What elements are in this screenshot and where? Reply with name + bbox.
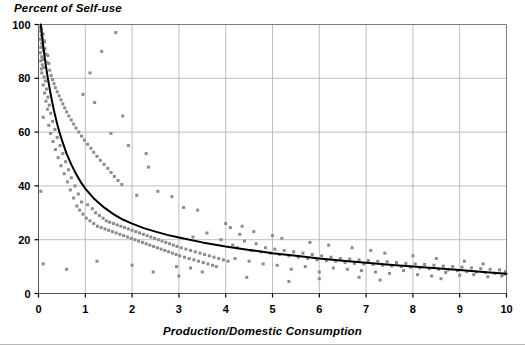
data-point-marker [61,152,64,155]
data-point-marker [416,273,419,276]
data-point-marker [177,275,180,278]
x-tick-label: 6 [316,303,322,315]
y-tick-label: 100 [12,19,30,31]
data-point-marker [67,114,70,117]
axis-ticks [35,25,507,298]
data-point-marker [127,144,130,147]
data-point-marker [156,246,159,249]
data-point-marker [105,219,108,222]
data-point-marker [248,260,251,263]
data-point-marker [189,249,192,252]
data-point-marker [182,206,185,209]
data-point-marker [135,194,138,197]
data-point-marker [148,244,151,247]
data-point-marker [442,265,445,268]
data-point-marker [63,172,66,175]
data-point-marker [72,197,75,200]
x-tick-label: 2 [129,303,135,315]
data-point-marker [197,260,200,263]
data-point-marker [430,275,433,278]
x-tick-label: 8 [410,303,416,315]
data-point-marker [157,238,160,241]
y-tick-label: 40 [18,180,30,192]
data-point-marker [85,217,88,220]
data-point-marker [458,274,461,277]
data-point-marker [486,275,489,278]
data-point-marker [54,148,57,151]
data-point-marker [276,264,279,267]
data-point-marker [211,264,214,267]
data-point-marker [245,276,248,279]
data-point-marker [160,248,163,251]
data-point-marker [88,71,91,74]
data-point-marker [205,231,208,234]
data-point-marker [116,223,119,226]
data-point-marker [376,260,379,263]
data-point-marker [318,270,321,273]
data-point-marker [46,54,49,57]
data-point-marker [96,225,99,228]
data-point-marker [170,195,173,198]
data-point-marker [96,260,99,263]
data-point-marker [273,248,276,251]
data-point-marker [44,79,47,82]
data-point-marker [147,166,150,169]
data-point-marker [120,183,123,186]
data-point-marker [367,259,370,262]
data-point-marker [411,254,414,257]
data-point-marker [271,234,274,237]
data-point-marker [198,252,201,255]
data-point-marker [203,253,206,256]
data-point-marker [43,92,46,95]
data-point-marker [42,66,45,69]
data-point-marker [142,233,145,236]
data-point-marker [435,257,438,260]
data-point-marker [42,84,45,87]
data-point-marker [78,209,81,212]
data-point-marker [479,267,482,270]
data-point-marker [500,275,503,278]
data-point-marker [383,252,386,255]
data-point-marker [80,201,83,204]
data-point-marker [40,55,43,58]
data-point-marker [327,244,330,247]
data-point-marker [108,221,111,224]
data-point-marker [178,254,181,257]
data-point-marker [252,230,255,233]
data-point-marker [472,273,475,276]
data-point-marker [231,244,234,247]
data-point-marker [308,241,311,244]
y-tick-label: 0 [24,288,30,300]
data-point-marker [134,230,137,233]
data-point-marker [66,180,69,183]
data-point-marker [201,270,204,273]
data-point-marker [112,222,115,225]
data-point-marker [146,234,149,237]
data-point-marker [53,128,56,131]
data-point-marker [222,258,225,261]
x-tick-label: 10 [500,303,512,315]
data-point-marker [351,246,354,249]
data-point-marker [92,151,95,154]
data-point-marker [56,136,59,139]
data-point-marker [196,209,199,212]
data-point-marker [156,190,159,193]
y-tick-labels: 020406080100 [12,19,30,300]
data-point-marker [191,236,194,239]
data-point-marker [77,131,80,134]
data-point-marker [39,190,42,193]
data-point-marker [444,271,447,274]
data-point-marker [51,78,54,81]
data-point-marker [59,144,62,147]
data-point-marker [92,222,95,225]
data-point-marker [145,152,148,155]
data-point-marker [176,245,179,248]
data-point-marker [439,277,442,280]
data-point-marker [188,257,191,260]
data-point-marker [52,140,55,143]
x-tick-label: 3 [176,303,182,315]
data-point-marker [91,207,94,210]
data-point-marker [346,268,349,271]
data-point-marker [470,266,473,269]
y-tick-label: 80 [18,72,30,84]
